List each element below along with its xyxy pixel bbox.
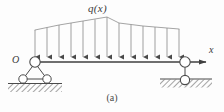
distributed-load-label: q(x) <box>88 3 107 14</box>
origin-label: O <box>12 55 19 65</box>
left-rocker-circle <box>43 75 51 83</box>
figure-caption: (a) <box>0 93 224 103</box>
load-arrow-group <box>35 17 179 57</box>
beam-load-diagram: q(x) O x (a) <box>0 0 224 112</box>
left-pin-circle <box>30 57 40 67</box>
right-roller-circle <box>180 75 189 84</box>
left-rocker-circle <box>19 75 27 83</box>
left-ground-hatch <box>8 84 62 92</box>
x-axis-label: x <box>209 45 213 55</box>
right-pin-circle <box>180 57 190 67</box>
